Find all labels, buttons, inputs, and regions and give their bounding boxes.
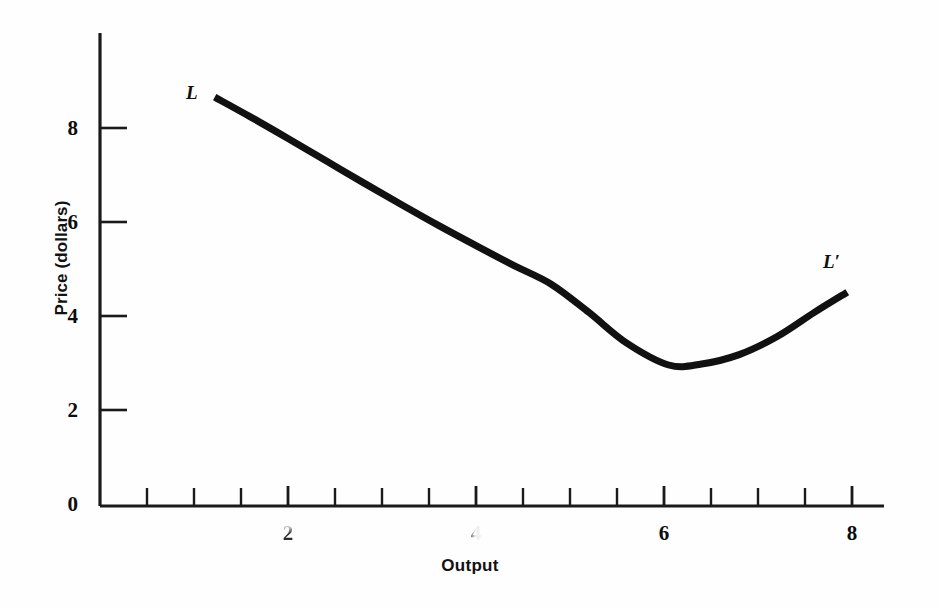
x-axis-ticks bbox=[147, 486, 852, 506]
y-axis-title: Price (dollars) bbox=[52, 158, 72, 358]
curve-end-label-L-prime: L′ bbox=[823, 251, 840, 273]
x-tick-label-2: 2 bbox=[265, 521, 311, 546]
price-curve bbox=[215, 97, 848, 367]
y-tick-label-8: 8 bbox=[36, 116, 78, 141]
x-tick-label-6: 6 bbox=[641, 521, 687, 546]
y-axis-ticks bbox=[100, 128, 127, 410]
x-tick-label-4: 4 bbox=[453, 521, 499, 546]
y-tick-label-0: 0 bbox=[36, 492, 78, 517]
chart-canvas: 8 6 4 2 0 2 4 6 8 Price (dollars) Output… bbox=[0, 0, 940, 609]
x-axis-title: Output bbox=[0, 556, 940, 576]
y-tick-label-2: 2 bbox=[36, 398, 78, 423]
x-tick-label-8: 8 bbox=[829, 521, 875, 546]
price-output-plot bbox=[0, 0, 940, 609]
curve-start-label-L: L bbox=[186, 82, 198, 104]
